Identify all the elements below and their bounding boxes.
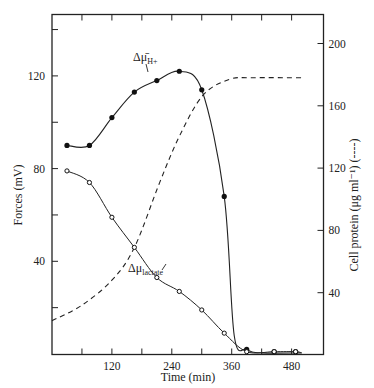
data-point-open	[222, 331, 226, 335]
data-point-open	[132, 245, 136, 249]
data-point-filled	[222, 194, 227, 199]
data-point-filled	[132, 90, 137, 95]
y-tick-label: 80	[34, 163, 46, 175]
axis-ticks	[52, 15, 324, 355]
chart: 12024036048040801204080120160200 Δμ̄H+ Δ…	[0, 0, 374, 388]
data-point-open	[294, 350, 298, 354]
x-tick-label: 480	[283, 360, 301, 372]
delta-mu-h-curve	[67, 71, 302, 353]
annotation-arrow-lactate	[162, 264, 166, 270]
x-axis-title: Time (min)	[161, 370, 216, 384]
data-point-filled	[109, 115, 114, 120]
data-point-filled	[199, 87, 204, 92]
data-point-filled	[177, 69, 182, 74]
data-point-open	[200, 308, 204, 312]
y-tick-label: 120	[28, 70, 46, 82]
y-right-axis-title: Cell protein (μg ml⁻¹) (----)	[347, 139, 361, 272]
data-point-open	[177, 289, 181, 293]
data-point-filled	[64, 143, 69, 148]
delta-mu-lactate-curve	[67, 171, 302, 353]
data-point-open	[65, 169, 69, 173]
y-tick-label: 40	[34, 255, 46, 267]
data-point-filled	[154, 78, 159, 83]
data-point-filled	[87, 143, 92, 148]
y-right-tick-label: 120	[329, 162, 347, 174]
plot-frame	[52, 15, 324, 355]
data-point-open	[110, 215, 114, 219]
y-right-tick-label: 80	[329, 224, 341, 236]
y-right-tick-label: 200	[329, 38, 347, 50]
y-right-tick-label: 160	[329, 100, 347, 112]
annotation-delta-mu-h: Δμ̄H+	[133, 50, 158, 66]
x-tick-label: 120	[103, 360, 121, 372]
y-axis-title: Forces (mV)	[11, 165, 25, 226]
delta-mu-h-markers	[64, 69, 298, 355]
data-point-open	[87, 180, 91, 184]
data-point-open	[272, 350, 276, 354]
data-point-open	[245, 350, 249, 354]
cell-protein-curve	[52, 78, 303, 321]
y-right-tick-label: 40	[329, 287, 341, 299]
tick-labels: 12024036048040801204080120160200	[28, 38, 346, 373]
x-tick-label: 360	[223, 360, 241, 372]
